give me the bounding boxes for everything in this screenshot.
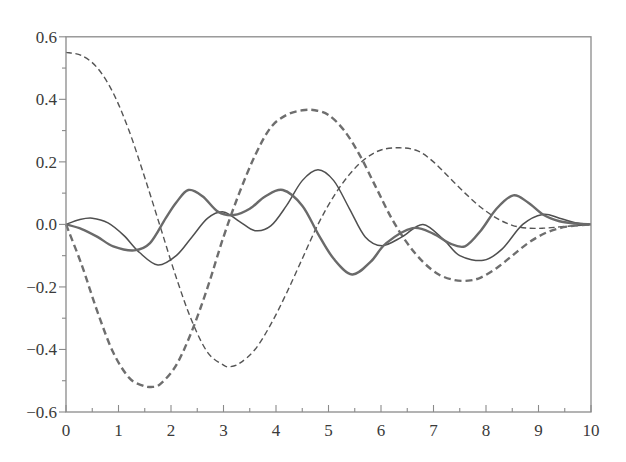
x-axis-ticks: 012345678910: [62, 405, 600, 440]
x-tick-label: 2: [167, 421, 176, 440]
y-tick-label: −0.2: [26, 278, 57, 297]
y-tick-label: −0.4: [26, 340, 57, 359]
y-axis-ticks: 0.60.40.20.0−0.2−0.4−0.6: [26, 28, 66, 422]
x-tick-label: 0: [62, 421, 71, 440]
x-tick-label: 5: [324, 421, 333, 440]
plot-curves: [66, 52, 591, 387]
y-tick-label: 0.6: [36, 28, 57, 47]
y-tick-label: 0.2: [36, 153, 57, 172]
series-thick-solid: [66, 190, 591, 275]
x-tick-label: 3: [219, 421, 228, 440]
x-tick-label: 10: [583, 421, 600, 440]
series-thin-dashed: [66, 52, 591, 366]
y-tick-label: 0.4: [36, 90, 58, 109]
x-tick-label: 4: [272, 421, 281, 440]
x-tick-label: 7: [429, 421, 438, 440]
y-tick-label: 0.0: [36, 215, 57, 234]
plot-frame: [66, 37, 591, 412]
x-tick-label: 8: [482, 421, 491, 440]
line-chart: 012345678910 0.60.40.20.0−0.2−0.4−0.6: [0, 0, 626, 462]
x-tick-label: 9: [534, 421, 543, 440]
x-tick-label: 1: [114, 421, 123, 440]
x-tick-label: 6: [377, 421, 386, 440]
y-tick-label: −0.6: [26, 403, 57, 422]
